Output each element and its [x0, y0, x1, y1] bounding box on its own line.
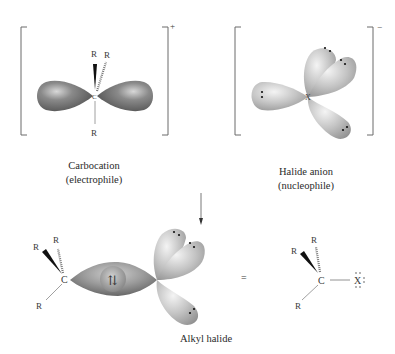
halide-lower-lobe [308, 97, 351, 139]
alkyl-halide-lewis-structure: R R R C X [291, 235, 365, 311]
plain-bond-product [46, 284, 62, 300]
substituent-r-bottom: R [91, 128, 97, 138]
halide-anion-caption: Halide anion [279, 166, 334, 177]
p-orbital-left-lobe [37, 81, 93, 111]
substituent-r-top: R [91, 49, 97, 59]
left-bracket-carbocation [21, 27, 27, 135]
paired-electrons-icon: ⇅ [107, 273, 118, 288]
p-orbital-right-lobe [97, 81, 153, 111]
positive-charge: + [170, 21, 175, 31]
lewis-r-bottom: R [295, 301, 301, 311]
right-bracket-halide [367, 27, 373, 135]
lewis-r-top: R [311, 235, 317, 245]
arrow-down-icon [199, 218, 203, 225]
plain-bond-lewis [302, 285, 318, 300]
carbocation-caption: Carbocation [68, 160, 120, 171]
halide-group: − X Halide anion (nucleophile) [235, 22, 382, 192]
left-bracket-halide [235, 27, 241, 135]
substituent-r-left: R [33, 242, 39, 252]
wedge-bond [93, 64, 97, 90]
electrophile-caption: (electrophile) [66, 174, 123, 186]
lewis-carbon: C [318, 275, 325, 286]
negative-charge: − [377, 22, 382, 32]
hash-bond-lewis [316, 247, 320, 272]
equals-sign: = [241, 272, 247, 283]
nucleophile-caption: (nucleophile) [278, 180, 334, 192]
alkyl-halide-orbital: R R R C ⇅ Alkyl halide [33, 229, 232, 344]
carbon-atom-product: C [61, 274, 68, 285]
reaction-arrow [199, 193, 203, 225]
alkyl-halide-caption: Alkyl halide [180, 333, 233, 344]
lewis-r-left: R [291, 246, 297, 256]
hash-bond [97, 62, 106, 91]
reaction-diagram: + R R R C Carbocation (electrophile) − [0, 0, 395, 354]
substituent-r-bottom: R [36, 301, 42, 311]
right-bracket-carbocation [162, 27, 168, 135]
product-halide-lower-lobe [157, 280, 199, 325]
wedge-bond-lewis [300, 251, 318, 273]
carbocation-group: + R R R C Carbocation (electrophile) [21, 21, 175, 186]
substituent-r-top: R [53, 235, 59, 245]
lewis-halogen: X [354, 275, 362, 286]
substituent-r-top-right: R [104, 50, 110, 60]
carbon-atom: C [92, 93, 97, 101]
halide-left-lobe [252, 82, 309, 110]
halogen-atom: X [305, 93, 311, 102]
